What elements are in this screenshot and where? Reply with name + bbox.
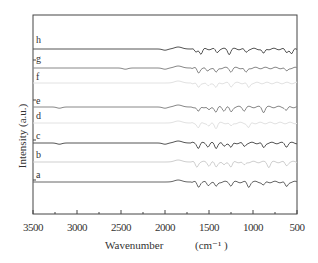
x-axis-label: Wavenumber bbox=[105, 239, 163, 251]
trace-label-a: a bbox=[36, 169, 40, 180]
trace-b bbox=[33, 160, 297, 168]
trace-a bbox=[33, 180, 297, 187]
x-tick-2500: 2500 bbox=[111, 221, 131, 233]
trace-label-d: d bbox=[36, 110, 41, 121]
x-tick-1000: 1000 bbox=[243, 221, 263, 233]
spectra-traces bbox=[33, 47, 297, 187]
x-axis-unit: (cm⁻¹ ) bbox=[195, 239, 228, 252]
x-tick-2000: 2000 bbox=[155, 221, 175, 233]
x-tick-500: 500 bbox=[290, 221, 305, 233]
x-tick-1500: 1500 bbox=[199, 221, 219, 233]
trace-label-c: c bbox=[36, 130, 40, 141]
trace-f bbox=[33, 81, 297, 87]
trace-label-g: g bbox=[36, 53, 41, 64]
trace-e bbox=[33, 105, 297, 113]
trace-g bbox=[33, 66, 297, 73]
trace-label-e: e bbox=[36, 95, 40, 106]
trace-label-f: f bbox=[36, 71, 39, 82]
trace-c bbox=[33, 141, 297, 149]
trace-h bbox=[33, 47, 297, 55]
x-axis-ticks bbox=[33, 210, 297, 214]
trace-label-b: b bbox=[36, 149, 41, 160]
y-axis-label: Intensity (a.u.) bbox=[16, 96, 28, 176]
x-tick-3500: 3500 bbox=[23, 221, 43, 233]
plot-frame bbox=[33, 15, 297, 214]
x-tick-3000: 3000 bbox=[67, 221, 87, 233]
trace-d bbox=[33, 121, 297, 129]
trace-label-h: h bbox=[36, 34, 41, 45]
